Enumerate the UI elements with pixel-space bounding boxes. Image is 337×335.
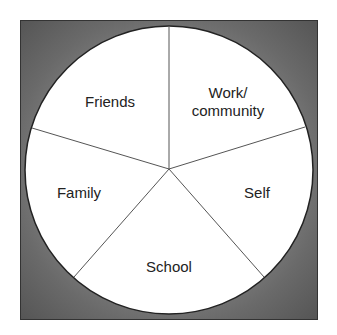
segment-label-work-line2: community [192,102,265,120]
segment-label-friends: Friends [85,93,135,111]
segment-label-family: Family [57,184,101,202]
segment-label-school: School [146,258,192,276]
life-domains-diagram: Friends Work/ community Self School Fami… [0,0,337,335]
segmented-circle [0,0,337,335]
segment-label-work-community: Work/ community [192,84,265,120]
segment-label-self: Self [244,184,270,202]
segment-label-work-line1: Work/ [192,84,265,102]
